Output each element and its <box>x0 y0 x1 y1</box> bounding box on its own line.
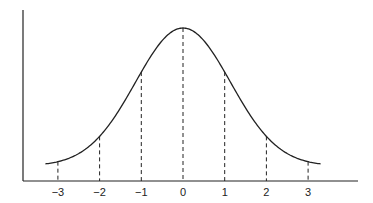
x-tick-label: −2 <box>93 186 106 198</box>
sd-dashed-lines <box>58 28 308 181</box>
x-tick-label: −1 <box>135 186 148 198</box>
bell-curve-chart: −3−2−10123 <box>0 0 373 203</box>
x-tick-label: −3 <box>52 186 65 198</box>
x-tick-label: 3 <box>305 186 311 198</box>
x-tick-labels: −3−2−10123 <box>52 186 312 198</box>
x-tick-label: 1 <box>222 186 228 198</box>
x-tick-label: 0 <box>180 186 186 198</box>
x-tick-label: 2 <box>263 186 269 198</box>
